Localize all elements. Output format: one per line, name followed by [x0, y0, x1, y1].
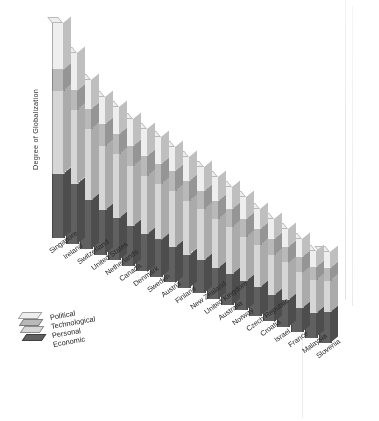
bar-column [108, 0, 119, 1]
bar-segment-side [218, 213, 226, 268]
bar-segment-side [175, 241, 183, 283]
bar-column [263, 0, 274, 1]
bar-segment-side [288, 256, 296, 300]
legend-swatch-economic[interactable] [21, 334, 46, 341]
bar-segment-side [133, 220, 141, 266]
chart-legend: PoliticalTechnologicalPersonalEconomic [20, 307, 170, 359]
bar-column [305, 0, 316, 1]
bar-segment-side [119, 148, 127, 218]
bar-segment-side [246, 231, 254, 281]
bar-column [66, 0, 77, 1]
bar-segment-side [189, 195, 197, 254]
bar-column [122, 0, 133, 1]
bar-column [150, 0, 161, 1]
bar-segment-side [232, 221, 240, 274]
bar-column [80, 0, 91, 1]
bar-column [52, 0, 63, 1]
bar-segment-side [105, 140, 113, 210]
bar-segment-side [175, 185, 183, 247]
bar-segment-side [91, 123, 99, 200]
chart-canvas: Degree of Globalization SloveniaMalaysia… [0, 0, 379, 421]
bar-segment-side [77, 47, 85, 91]
bar-segment-side [77, 104, 85, 183]
bar-segment-side [260, 239, 268, 287]
bar-column [193, 0, 204, 1]
bar-segment-side [63, 168, 71, 238]
bar-segment-side [274, 249, 282, 295]
bar-segment-side [63, 85, 71, 173]
bar-segment-side [161, 178, 169, 240]
bar-segment-side [204, 203, 212, 260]
bar-segment-side [147, 170, 155, 234]
bar-column [235, 0, 246, 1]
bar-column [249, 0, 260, 1]
bar-column [221, 0, 232, 1]
bar-column [291, 0, 302, 1]
bar-column [94, 0, 105, 1]
bar-column [136, 0, 147, 1]
bar-column [319, 0, 330, 1]
bar-column [164, 0, 175, 1]
legend-swatch-personal[interactable] [20, 326, 45, 333]
bar-top-cap [47, 17, 63, 23]
bar-segment-side [63, 17, 71, 70]
bar-segment-side [161, 233, 169, 277]
bar-column [277, 0, 288, 1]
bar-column [207, 0, 218, 1]
bar-segment-side [302, 266, 310, 308]
bar-column [178, 0, 189, 1]
bar-segment-side [91, 194, 99, 249]
bar-segment-side [133, 160, 141, 226]
legend-swatch-stack [20, 312, 54, 346]
